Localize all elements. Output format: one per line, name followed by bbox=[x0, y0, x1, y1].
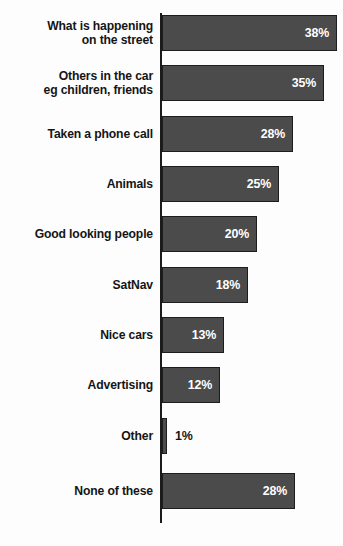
category-label: Other bbox=[3, 429, 153, 443]
bar[interactable]: 20% bbox=[162, 216, 257, 252]
bar[interactable]: 28% bbox=[162, 473, 295, 509]
bar-value-label: 12% bbox=[188, 378, 219, 392]
bar-row: Taken a phone call 28% bbox=[0, 115, 343, 153]
bar-row: Good looking people 20% bbox=[0, 215, 343, 253]
bar[interactable]: 1% bbox=[162, 418, 167, 454]
bar-row: What is happening on the street 38% bbox=[0, 14, 343, 52]
bar-value-label: 25% bbox=[247, 177, 278, 191]
category-label: Nice cars bbox=[3, 328, 153, 342]
bar-value-label: 28% bbox=[261, 127, 292, 141]
bar-value-label: 1% bbox=[166, 429, 193, 443]
category-label: Others in the car eg children, friends bbox=[3, 69, 153, 98]
bar[interactable]: 18% bbox=[162, 267, 248, 303]
bar-row: Animals 25% bbox=[0, 165, 343, 203]
bar-row: Nice cars 13% bbox=[0, 316, 343, 354]
bar-row: SatNav 18% bbox=[0, 266, 343, 304]
bar[interactable]: 35% bbox=[162, 65, 324, 101]
bar[interactable]: 28% bbox=[162, 116, 293, 152]
bar-row: Advertising 12% bbox=[0, 366, 343, 404]
bar-value-label: 18% bbox=[216, 278, 247, 292]
category-label: None of these bbox=[3, 484, 153, 498]
bar[interactable]: 38% bbox=[162, 15, 337, 51]
category-label: What is happening on the street bbox=[3, 19, 153, 48]
category-label: Advertising bbox=[3, 378, 153, 392]
bar-row: Others in the car eg children, friends 3… bbox=[0, 64, 343, 102]
bar-row: None of these 28% bbox=[0, 472, 343, 510]
category-label: SatNav bbox=[3, 278, 153, 292]
category-label: Taken a phone call bbox=[3, 127, 153, 141]
category-label: Good looking people bbox=[3, 227, 153, 241]
bar-value-label: 13% bbox=[192, 328, 223, 342]
bar[interactable]: 25% bbox=[162, 166, 279, 202]
bar-value-label: 28% bbox=[263, 484, 294, 498]
bar-value-label: 20% bbox=[225, 227, 256, 241]
bar-value-label: 38% bbox=[305, 26, 336, 40]
bar[interactable]: 13% bbox=[162, 317, 224, 353]
bar[interactable]: 12% bbox=[162, 367, 220, 403]
category-label: Animals bbox=[3, 177, 153, 191]
bar-row: Other 1% bbox=[0, 417, 343, 455]
horizontal-bar-chart: What is happening on the street 38% Othe… bbox=[0, 0, 343, 546]
bar-value-label: 35% bbox=[292, 76, 323, 90]
